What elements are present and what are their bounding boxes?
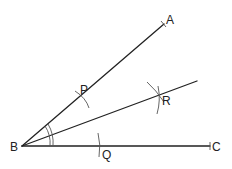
geometry-diagram: A B C P Q R [0,0,232,169]
label-B: B [10,140,18,154]
arc-Q [98,133,100,157]
label-P: P [80,83,88,97]
label-R: R [162,94,171,108]
arc-R-2 [157,86,159,114]
label-Q: Q [102,148,111,162]
ray-BA [22,24,164,146]
label-C: C [212,140,221,154]
label-A: A [166,13,174,27]
ray-BR-bisector [22,81,197,146]
